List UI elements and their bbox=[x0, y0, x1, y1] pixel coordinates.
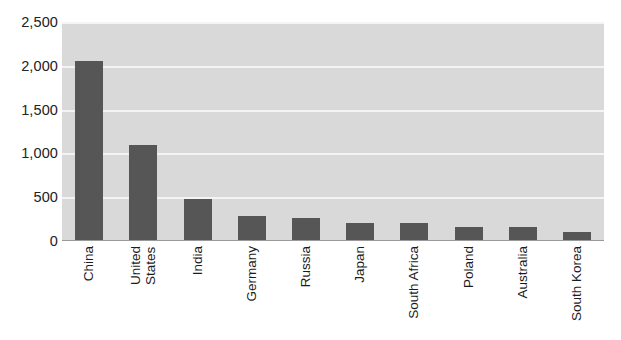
y-axis-tick-label: 2,000 bbox=[2, 59, 58, 74]
x-axis-line bbox=[62, 240, 604, 241]
x-axis-tick-label: India bbox=[172, 246, 224, 338]
bar bbox=[129, 145, 157, 241]
bar bbox=[455, 227, 483, 241]
bar-chart: 2,500 2,000 1,500 1,000 500 0 ChinaUnite… bbox=[0, 0, 621, 340]
bar bbox=[75, 61, 103, 241]
x-axis-tick-label-line: States bbox=[143, 246, 158, 285]
x-axis-tick-label: South Korea bbox=[551, 246, 603, 338]
y-axis: 2,500 2,000 1,500 1,000 500 0 bbox=[0, 0, 58, 340]
bars-layer bbox=[62, 22, 604, 241]
x-axis-tick-label-line: Australia bbox=[514, 246, 529, 299]
x-axis-tick-label-line: South Africa bbox=[406, 246, 421, 319]
x-axis-tick-label-line: South Korea bbox=[569, 246, 584, 321]
x-axis-tick-label-line: Japan bbox=[352, 246, 367, 283]
x-axis-tick-label: South Africa bbox=[388, 246, 440, 338]
y-axis-tick-label: 1,000 bbox=[2, 146, 58, 161]
x-axis-tick-label: UnitedStates bbox=[117, 246, 169, 338]
x-axis-tick-label: Poland bbox=[443, 246, 495, 338]
bar bbox=[292, 218, 320, 241]
bar bbox=[238, 216, 266, 241]
x-axis-tick-label: China bbox=[63, 246, 115, 338]
x-axis-tick-label-line: Russia bbox=[298, 246, 313, 287]
y-axis-tick-label: 500 bbox=[2, 190, 58, 205]
x-axis: ChinaUnitedStatesIndiaGermanyRussiaJapan… bbox=[62, 246, 604, 340]
x-axis-tick-label: Russia bbox=[280, 246, 332, 338]
x-axis-tick-label: Germany bbox=[226, 246, 278, 338]
x-axis-tick-label-line: United bbox=[128, 246, 143, 285]
plot-area bbox=[62, 22, 604, 241]
x-axis-tick-label-line: China bbox=[81, 246, 96, 281]
y-axis-tick-label: 2,500 bbox=[2, 15, 58, 30]
bar bbox=[346, 223, 374, 241]
x-axis-tick-label-line: Germany bbox=[243, 246, 258, 302]
x-axis-tick-label-line: India bbox=[189, 246, 204, 275]
y-axis-tick-label: 0 bbox=[2, 234, 58, 249]
bar bbox=[509, 227, 537, 241]
bar bbox=[184, 199, 212, 241]
x-axis-tick-label-line: Poland bbox=[460, 246, 475, 288]
x-axis-tick-label: Australia bbox=[497, 246, 549, 338]
y-axis-tick-label: 1,500 bbox=[2, 102, 58, 117]
x-axis-tick-label: Japan bbox=[334, 246, 386, 338]
bar bbox=[400, 223, 428, 241]
